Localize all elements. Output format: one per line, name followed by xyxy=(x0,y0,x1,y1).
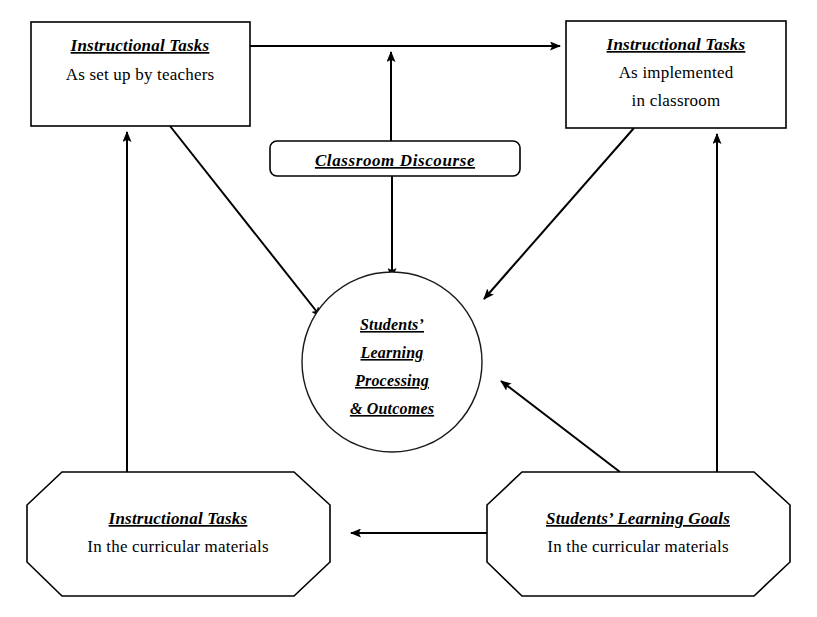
node-tasks-curricular[interactable]: Instructional Tasks In the curricular ma… xyxy=(27,472,330,596)
node-classroom-discourse[interactable]: Classroom Discourse xyxy=(270,141,520,176)
edge-goals-to-outcomes xyxy=(501,381,620,472)
node-tasks-set-up[interactable]: Instructional Tasks As set up by teacher… xyxy=(31,22,250,126)
node-student-outcomes-line-4: & Outcomes xyxy=(350,400,434,417)
node-tasks-implemented-title: Instructional Tasks xyxy=(606,35,746,54)
node-student-outcomes-line-3: Processing xyxy=(354,372,429,390)
node-goals-curricular-title: Students’ Learning Goals xyxy=(546,509,730,528)
node-classroom-discourse-title: Classroom Discourse xyxy=(315,151,475,170)
node-tasks-implemented[interactable]: Instructional Tasks As implemented in cl… xyxy=(566,21,786,128)
node-tasks-implemented-subtitle-1: As implemented xyxy=(619,63,734,82)
node-goals-curricular[interactable]: Students’ Learning Goals In the curricul… xyxy=(487,472,790,596)
node-tasks-set-up-title: Instructional Tasks xyxy=(70,36,210,55)
node-goals-curricular-subtitle: In the curricular materials xyxy=(547,537,728,556)
node-tasks-set-up-subtitle: As set up by teachers xyxy=(66,65,215,84)
node-tasks-curricular-title: Instructional Tasks xyxy=(108,509,248,528)
node-student-outcomes-line-1: Students’ xyxy=(360,316,424,333)
node-student-outcomes-line-2: Learning xyxy=(360,344,424,362)
node-tasks-implemented-subtitle-2: in classroom xyxy=(632,91,721,110)
node-tasks-curricular-subtitle: In the curricular materials xyxy=(87,537,268,556)
diagram-canvas: Instructional Tasks As set up by teacher… xyxy=(0,0,817,617)
diagram-svg: Instructional Tasks As set up by teacher… xyxy=(0,0,817,617)
node-student-outcomes[interactable]: Students’ Learning Processing & Outcomes xyxy=(302,272,482,452)
